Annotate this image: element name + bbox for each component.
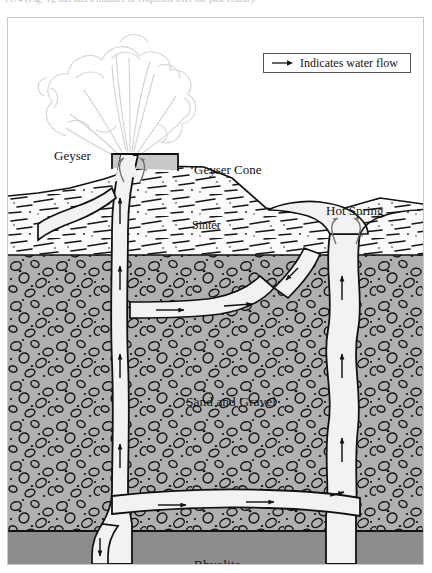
legend-label: Indicates water flow xyxy=(300,56,398,71)
label-geyser-cone: Geyser Cone xyxy=(194,163,262,176)
cropped-caption-text: 1974 (Fig. 1), has had a number of erupt… xyxy=(0,0,432,6)
figure-frame: Geyser Geyser Cone Hot Spring Sinter San… xyxy=(7,17,424,565)
geological-cross-section-diagram xyxy=(8,18,423,564)
label-geyser: Geyser xyxy=(54,149,91,162)
label-rhyolite: Rhyolite xyxy=(194,558,241,565)
label-hot-spring: Hot Spring xyxy=(326,204,383,217)
label-sinter: Sinter xyxy=(192,219,221,231)
legend-box: Indicates water flow xyxy=(263,53,411,73)
label-sand-and-gravel: Sand and Gravel xyxy=(186,395,276,409)
right-arrow-icon xyxy=(271,58,295,68)
